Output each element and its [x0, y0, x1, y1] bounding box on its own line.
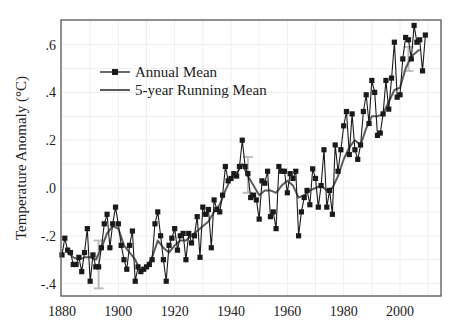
data-point-marker [237, 164, 242, 169]
temperature-anomaly-chart: 1880190019201940196019802000 -.4-.2.0.2.… [0, 0, 463, 330]
data-point-marker [389, 75, 394, 80]
x-tick-label: 1940 [217, 304, 245, 319]
data-point-marker [366, 121, 371, 126]
data-point-marker [110, 221, 115, 226]
data-point-marker [330, 212, 335, 217]
data-point-marker [195, 214, 200, 219]
data-point-marker [310, 166, 315, 171]
data-point-marker [183, 257, 188, 262]
data-point-marker [347, 152, 352, 157]
data-point-marker [296, 233, 301, 238]
data-point-marker [372, 90, 377, 95]
legend-running-label: 5-year Running Mean [135, 82, 267, 98]
data-point-marker [186, 231, 191, 236]
data-point-marker [350, 111, 355, 116]
data-point-marker [88, 279, 93, 284]
data-point-marker [273, 226, 278, 231]
data-point-marker [285, 190, 290, 195]
data-point-marker [299, 209, 304, 214]
y-tick-label: .0 [46, 181, 57, 196]
data-point-marker [203, 212, 208, 217]
data-point-marker [220, 193, 225, 198]
data-point-marker [85, 226, 90, 231]
x-tick-label: 1900 [104, 304, 132, 319]
data-point-marker [240, 138, 245, 143]
data-point-marker [99, 245, 104, 250]
data-point-marker [271, 209, 276, 214]
data-point-marker [364, 92, 369, 97]
data-point-marker [251, 193, 256, 198]
data-point-marker [245, 171, 250, 176]
data-point-marker [392, 40, 397, 45]
data-point-marker [234, 173, 239, 178]
data-point-marker [119, 243, 124, 248]
data-point-marker [62, 236, 67, 241]
legend-annual-marker-icon [112, 69, 118, 75]
data-point-marker [76, 255, 81, 260]
data-point-marker [386, 107, 391, 112]
data-point-marker [358, 142, 363, 147]
data-point-marker [197, 255, 202, 260]
data-point-marker [257, 216, 262, 221]
data-point-marker [369, 78, 374, 83]
data-point-marker [113, 205, 118, 210]
x-tick-label: 1880 [48, 304, 76, 319]
data-point-marker [383, 78, 388, 83]
data-point-marker [321, 147, 326, 152]
data-point-marker [397, 92, 402, 97]
data-point-marker [265, 169, 270, 174]
grid-lines [61, 20, 441, 296]
data-point-marker [361, 109, 366, 114]
data-point-marker [338, 147, 343, 152]
data-point-marker [212, 197, 217, 202]
data-point-marker [155, 209, 160, 214]
data-point-marker [282, 169, 287, 174]
data-point-marker [290, 176, 295, 181]
y-tick-label: -.4 [41, 277, 56, 292]
data-point-marker [423, 32, 428, 37]
legend-annual-label: Annual Mean [135, 64, 218, 80]
data-point-marker [307, 202, 312, 207]
data-point-marker [206, 207, 211, 212]
data-point-marker [242, 164, 247, 169]
data-point-marker [417, 37, 422, 42]
data-point-marker [164, 279, 169, 284]
data-point-marker [102, 221, 107, 226]
data-point-marker [335, 169, 340, 174]
data-point-marker [268, 214, 273, 219]
x-tick-label: 2000 [386, 304, 414, 319]
data-point-marker [158, 233, 163, 238]
data-point-marker [324, 205, 329, 210]
data-point-marker [254, 197, 259, 202]
data-point-marker [355, 157, 360, 162]
data-point-marker [223, 164, 228, 169]
data-point-marker [217, 209, 222, 214]
data-point-marker [121, 257, 126, 262]
data-point-marker [104, 212, 109, 217]
data-point-marker [341, 123, 346, 128]
x-tick-label: 1980 [330, 304, 358, 319]
data-point-marker [68, 250, 73, 255]
data-point-marker [304, 188, 309, 193]
x-tick-label: 1960 [273, 304, 301, 319]
data-point-marker [161, 257, 166, 262]
data-point-marker [147, 262, 152, 267]
data-point-marker [59, 252, 64, 257]
data-point-marker [124, 267, 129, 272]
data-point-marker [406, 37, 411, 42]
y-tick-label: .4 [46, 85, 57, 100]
data-point-marker [288, 171, 293, 176]
data-point-marker [189, 240, 194, 245]
data-point-marker [192, 233, 197, 238]
data-point-marker [381, 111, 386, 116]
data-point-marker [181, 231, 186, 236]
data-point-marker [166, 243, 171, 248]
data-point-marker [96, 264, 101, 269]
data-point-marker [293, 169, 298, 174]
data-point-marker [135, 264, 140, 269]
data-point-marker [150, 257, 155, 262]
data-point-marker [79, 269, 84, 274]
data-point-marker [378, 130, 383, 135]
data-point-marker [276, 164, 281, 169]
data-point-marker [116, 221, 121, 226]
